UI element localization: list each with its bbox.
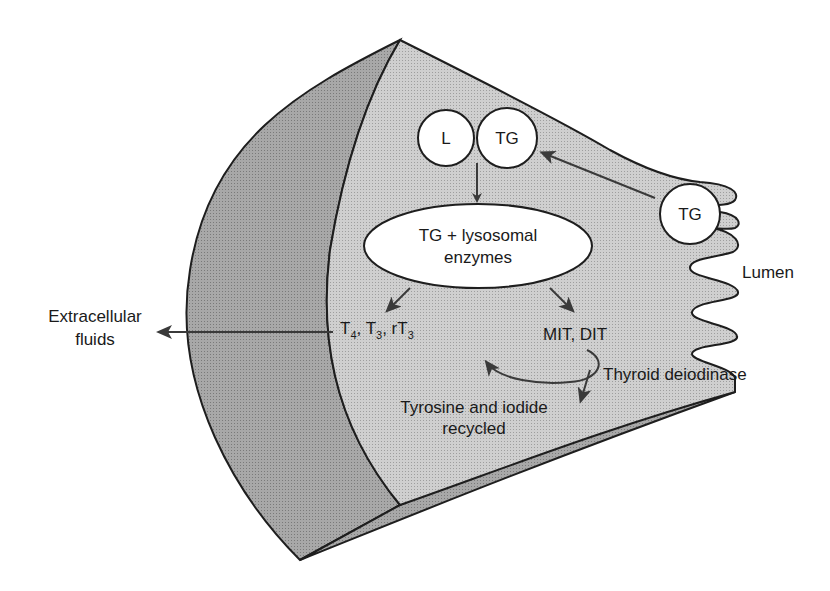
lysosome-label: L [441,129,450,148]
tg-vesicle-label: TG [495,129,519,148]
recycled-label-line2: recycled [442,419,505,438]
thyroid-cell-diagram: L TG TG TG + lysosomal enzymes T4, T3, r… [0,0,830,591]
lumen-tg-label: TG [678,205,702,224]
extracellular-label-line1: Extracellular [48,307,142,326]
lumen-label: Lumen [742,263,794,282]
deiodinase-label: Thyroid deiodinase [603,365,747,384]
recycled-label-line1: Tyrosine and iodide [400,398,547,417]
ellipse-label-line1: TG + lysosomal [419,226,538,245]
ellipse-label-line2: enzymes [444,248,512,267]
mit-dit-label: MIT, DIT [543,325,607,344]
phagolysosome-ellipse [364,204,592,288]
extracellular-label-line2: fluids [75,330,115,349]
